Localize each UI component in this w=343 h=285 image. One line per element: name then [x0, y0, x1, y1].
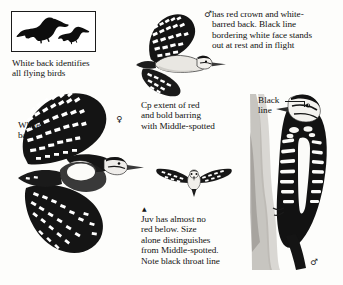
- compare-note: Cp extent of red and bold barring with M…: [141, 100, 263, 131]
- white-back-label: White back: [18, 120, 40, 140]
- juvenile-note: Juv has almost no red below. Size alone …: [141, 214, 281, 266]
- female-symbol: ♀: [116, 115, 122, 124]
- upper-wing-lower: [138, 67, 184, 98]
- upper-body: [155, 55, 226, 72]
- juvenile-marker-icon: ▲: [142, 206, 147, 212]
- black-line-leader: [285, 101, 305, 102]
- flying-woodpecker-head-on: [155, 163, 233, 205]
- male-symbol-perched: ♂: [310, 258, 318, 267]
- upper-tail: [136, 61, 156, 69]
- large-lower-wing: [25, 185, 103, 253]
- large-body: [60, 154, 144, 192]
- inset-caption: White back identifies all flying birds: [12, 58, 132, 79]
- flying-silhouette-inset: [11, 11, 96, 52]
- inset-silhouettes: [12, 12, 94, 50]
- black-line-label: Black line: [258, 95, 279, 115]
- headon-left-wing: [156, 169, 189, 183]
- small-bird-silhouette: [58, 27, 89, 45]
- upper-wing-barred: [145, 12, 199, 64]
- large-bird-silhouette: [17, 17, 69, 43]
- headon-body: [188, 170, 201, 197]
- male-note: has red crown and white- barred back. Bl…: [212, 9, 340, 51]
- large-tail: [18, 170, 62, 187]
- black-line-leader-tick: [304, 101, 305, 107]
- illustration-plate: White back identifies all flying birds: [0, 0, 343, 285]
- male-symbol-upper: ♂: [204, 10, 212, 19]
- headon-right-wing: [199, 169, 232, 183]
- perched-body: [273, 95, 327, 270]
